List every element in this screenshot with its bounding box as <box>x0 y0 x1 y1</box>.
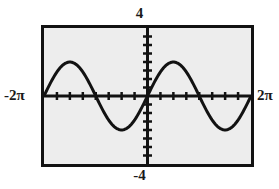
y-min-label: -4 <box>0 168 279 183</box>
x-max-label: 2π <box>257 88 273 103</box>
y-max-label: 4 <box>0 6 279 21</box>
x-min-label: -2π <box>4 88 25 103</box>
plot-canvas <box>44 28 251 164</box>
graph-screenshot: 4 -2π 2π -4 <box>0 0 279 189</box>
plot-frame <box>41 25 254 167</box>
